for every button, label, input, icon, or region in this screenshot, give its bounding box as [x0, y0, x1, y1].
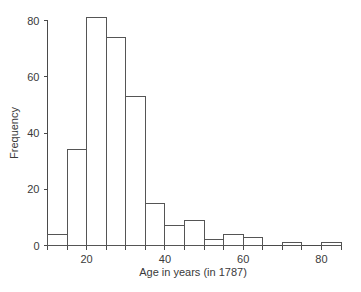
histogram-bar	[145, 203, 165, 245]
histogram-bar	[184, 220, 204, 245]
histogram-bar	[48, 234, 68, 245]
y-tick-label: 80	[27, 15, 39, 27]
chart-canvas: 020406080 20406080 Age in years (in 1787…	[0, 0, 361, 292]
histogram-bar	[87, 18, 107, 246]
histogram-bar	[204, 240, 224, 246]
histogram-bar	[165, 226, 185, 246]
histogram-bar	[224, 234, 244, 245]
y-tick-label: 20	[27, 183, 39, 195]
histogram-bars	[48, 18, 342, 246]
y-tick-label: 40	[27, 127, 39, 139]
histogram-bar	[67, 150, 87, 246]
x-tick-label: 60	[237, 253, 249, 265]
histogram-bar	[321, 243, 341, 246]
y-axis: 020406080	[27, 15, 47, 252]
y-tick-label: 0	[33, 240, 39, 252]
histogram-bar	[106, 37, 126, 245]
y-axis-title: Frequency	[8, 107, 20, 159]
x-axis: 20406080	[48, 246, 342, 265]
histogram-figure: 020406080 20406080 Age in years (in 1787…	[0, 0, 361, 292]
histogram-bar	[243, 237, 263, 245]
y-tick-label: 60	[27, 71, 39, 83]
histogram-bar	[282, 243, 302, 246]
x-tick-label: 20	[81, 253, 93, 265]
histogram-bar	[126, 96, 146, 245]
x-axis-title: Age in years (in 1787)	[139, 266, 247, 278]
x-tick-label: 40	[159, 253, 171, 265]
x-tick-label: 80	[315, 253, 327, 265]
